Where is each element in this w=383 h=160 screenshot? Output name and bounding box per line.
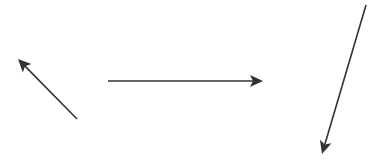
- arrow-up-left: [18, 59, 77, 119]
- arrow-down-left: [320, 5, 366, 154]
- arrow-right: [108, 75, 263, 87]
- arrow-shaft: [325, 5, 366, 144]
- diagram-canvas: [0, 0, 383, 160]
- arrow-shaft: [25, 66, 77, 119]
- arrows-layer: [18, 5, 366, 154]
